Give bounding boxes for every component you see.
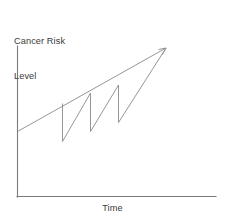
x-axis-label: Time	[0, 203, 225, 215]
y-axis-label-line1: Cancer Risk	[14, 36, 65, 48]
sawtooth-risk-trace	[63, 48, 167, 142]
y-axis-label-line2: Level	[14, 71, 65, 83]
y-axis-label: Cancer Risk Level	[14, 13, 65, 105]
chart-figure: Cancer Risk Level Time	[0, 0, 225, 221]
